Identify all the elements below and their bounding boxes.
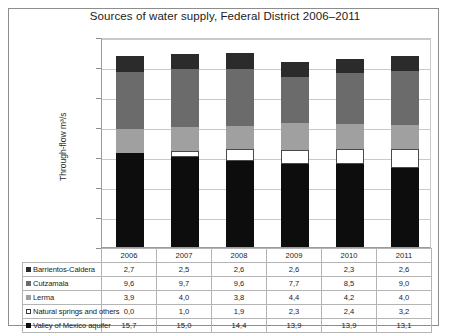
legend-item-valley-of-mexico-aquifer: Valley of Mexico aquifer bbox=[23, 319, 102, 333]
gridline bbox=[102, 69, 430, 70]
table-cell-value: 3,2 bbox=[377, 305, 432, 319]
table-cell-value: 2,5 bbox=[157, 263, 212, 277]
legend-swatch-icon bbox=[26, 267, 31, 272]
table-cell-value: 9,6 bbox=[212, 277, 267, 291]
legend-label: Lerma bbox=[33, 293, 54, 302]
gridline bbox=[102, 159, 430, 160]
table-year-header: 2008 bbox=[212, 249, 267, 263]
gridline bbox=[102, 219, 430, 220]
table-row: Natural springs and others0,01,01,92,32,… bbox=[23, 305, 432, 319]
bar-segment bbox=[391, 71, 419, 125]
table-cell-value: 7,7 bbox=[267, 277, 322, 291]
bar-column-2011 bbox=[391, 37, 419, 247]
table-cell-value: 4,0 bbox=[377, 291, 432, 305]
chart-figure: Sources of water supply, Federal Distric… bbox=[0, 0, 449, 336]
table-cell-value: 4,0 bbox=[157, 291, 212, 305]
bar-column-2008 bbox=[226, 37, 254, 247]
bar-column-2009 bbox=[281, 37, 309, 247]
table-cell-value: 2,6 bbox=[212, 263, 267, 277]
bar-segment bbox=[391, 149, 419, 168]
bar-segment bbox=[226, 161, 254, 247]
table-cell-value: 3,8 bbox=[212, 291, 267, 305]
bar-segment bbox=[336, 124, 364, 149]
bar-segment bbox=[391, 168, 419, 247]
legend-item-natural-springs-and-others: Natural springs and others bbox=[23, 305, 102, 319]
bar-segment bbox=[281, 123, 309, 149]
y-axis-title: Through-flow m³/s bbox=[58, 113, 68, 182]
bar-segment bbox=[171, 69, 199, 127]
legend-swatch-icon bbox=[26, 309, 31, 314]
bar-segment bbox=[171, 151, 199, 157]
bar-segment bbox=[391, 125, 419, 149]
plot-area bbox=[101, 38, 431, 248]
table-year-header: 2011 bbox=[377, 249, 432, 263]
bar-segment bbox=[336, 164, 364, 247]
bar-segment bbox=[116, 153, 144, 247]
table-cell-value: 2,4 bbox=[322, 305, 377, 319]
legend-swatch-icon bbox=[26, 323, 31, 328]
table-header-row: 200620072008200920102011 bbox=[23, 249, 432, 263]
bar-segment bbox=[226, 149, 254, 160]
table-cell-value: 2,3 bbox=[322, 263, 377, 277]
table-year-header: 2010 bbox=[322, 249, 377, 263]
bar-column-2010 bbox=[336, 37, 364, 247]
table-year-header: 2009 bbox=[267, 249, 322, 263]
table-year-header: 2007 bbox=[157, 249, 212, 263]
bar-segment bbox=[226, 53, 254, 69]
legend-item-lerma: Lerma bbox=[23, 291, 102, 305]
chart-title: Sources of water supply, Federal Distric… bbox=[20, 10, 430, 22]
legend-item-cutzamala: Cutzamala bbox=[23, 277, 102, 291]
table-cell-value: 2,3 bbox=[267, 305, 322, 319]
bar-segment bbox=[336, 73, 364, 124]
data-table: 200620072008200920102011 Barrientos-Cald… bbox=[22, 248, 432, 333]
bar-segment bbox=[171, 157, 199, 247]
legend-label: Cutzamala bbox=[33, 279, 68, 288]
bar-segment bbox=[171, 54, 199, 69]
bar-segment bbox=[391, 56, 419, 72]
table-body: Barrientos-Caldera2,72,52,62,62,32,6Cutz… bbox=[23, 263, 432, 333]
table-cell-value: 13,9 bbox=[267, 319, 322, 333]
bar-segment bbox=[226, 69, 254, 127]
bar-column-2007 bbox=[171, 37, 199, 247]
table-cell-value: 14,4 bbox=[212, 319, 267, 333]
table-row: Valley of Mexico aquifer15,715,014,413,9… bbox=[23, 319, 432, 333]
table-cell-value: 13,1 bbox=[377, 319, 432, 333]
legend-swatch-icon bbox=[26, 281, 31, 286]
bar-segment bbox=[116, 56, 144, 72]
bar-segment bbox=[171, 127, 199, 151]
table-row: Lerma3,94,03,84,44,24,0 bbox=[23, 291, 432, 305]
gridline bbox=[102, 189, 430, 190]
gridline bbox=[102, 39, 430, 40]
table-cell-value: 9,6 bbox=[102, 277, 157, 291]
table-cell-value: 1,0 bbox=[157, 305, 212, 319]
table-cell-value: 8,5 bbox=[322, 277, 377, 291]
gridline bbox=[102, 99, 430, 100]
table-cell-value: 15,0 bbox=[157, 319, 212, 333]
table-cell-value: 4,4 bbox=[267, 291, 322, 305]
bar-segment bbox=[116, 72, 144, 130]
bar-segment bbox=[336, 59, 364, 73]
bar-segment bbox=[281, 150, 309, 164]
table-cell-value: 1,9 bbox=[212, 305, 267, 319]
table-cell-value: 4,2 bbox=[322, 291, 377, 305]
table-cell-value: 13,9 bbox=[322, 319, 377, 333]
legend-label: Barrientos-Caldera bbox=[33, 265, 95, 274]
legend-item-barrientos-caldera: Barrientos-Caldera bbox=[23, 263, 102, 277]
table-cell-value: 9,7 bbox=[157, 277, 212, 291]
table-corner-cell bbox=[23, 249, 102, 263]
table-row: Barrientos-Caldera2,72,52,62,62,32,6 bbox=[23, 263, 432, 277]
bar-segment bbox=[336, 149, 364, 163]
table-cell-value: 2,6 bbox=[267, 263, 322, 277]
legend-swatch-icon bbox=[26, 295, 31, 300]
bar-segment bbox=[116, 129, 144, 152]
legend-label: Natural springs and others bbox=[33, 307, 119, 316]
table-year-header: 2006 bbox=[102, 249, 157, 263]
gridline bbox=[102, 129, 430, 130]
table-cell-value: 2,7 bbox=[102, 263, 157, 277]
legend-label: Valley of Mexico aquifer bbox=[33, 321, 111, 330]
bar-segment bbox=[226, 126, 254, 149]
bar-segment bbox=[281, 164, 309, 247]
bar-segment bbox=[281, 62, 309, 78]
table-cell-value: 9,0 bbox=[377, 277, 432, 291]
bar-column-2006 bbox=[116, 37, 144, 247]
